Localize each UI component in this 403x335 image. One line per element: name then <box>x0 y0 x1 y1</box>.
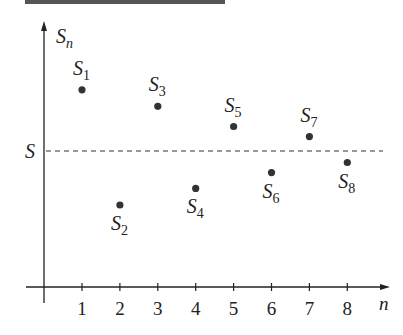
data-point <box>268 169 275 176</box>
point-label: S5 <box>225 94 242 120</box>
data-point <box>192 185 199 192</box>
y-axis-arrow-icon <box>41 21 47 31</box>
data-point <box>78 86 85 93</box>
point-label: S1 <box>73 57 90 83</box>
data-point <box>344 159 351 166</box>
data-point <box>116 201 123 208</box>
x-axis-label: n <box>379 293 389 314</box>
data-point <box>306 133 313 140</box>
point-label: S3 <box>149 73 166 99</box>
x-tick-label: 5 <box>229 298 239 319</box>
x-tick-label: 8 <box>343 298 353 319</box>
point-label: S4 <box>187 195 204 221</box>
x-tick-label: 6 <box>267 298 277 319</box>
point-label: S6 <box>263 180 280 206</box>
point-label: S8 <box>338 170 355 196</box>
data-points: S1S2S3S4S5S6S7S8 <box>73 57 355 238</box>
data-point <box>230 123 237 130</box>
limit-label: S <box>25 140 35 162</box>
x-tick-label: 2 <box>115 298 125 319</box>
sequence-convergence-chart: Sn n S 12345678 S1S2S3S4S5S6S7S8 <box>0 0 403 335</box>
point-label: S2 <box>111 212 128 238</box>
x-tick-label: 1 <box>77 298 87 319</box>
x-axis-arrow-icon <box>380 284 390 290</box>
data-point <box>154 103 161 110</box>
point-label: S7 <box>300 104 317 130</box>
x-ticks: 12345678 <box>77 283 352 319</box>
x-tick-label: 4 <box>191 298 201 319</box>
x-tick-label: 7 <box>305 298 315 319</box>
y-axis-label: Sn <box>56 25 73 51</box>
top-bar <box>25 0 225 4</box>
x-tick-label: 3 <box>153 298 163 319</box>
